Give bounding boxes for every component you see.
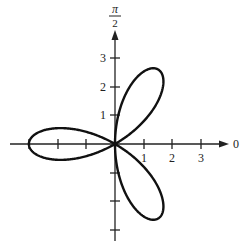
x-tick-label-1: 1 (141, 151, 147, 165)
vertical-axis-label-numerator: π (112, 2, 119, 16)
y-tick-label-1: 1 (100, 108, 106, 122)
y-tick-label-2: 2 (100, 80, 106, 94)
polar-plot: 1 2 3 1 2 3 0 π 2 (0, 0, 242, 241)
polar-axis-label: 0 (233, 137, 239, 151)
x-tick-label-2: 2 (169, 151, 175, 165)
polar-axis-arrow-icon (219, 141, 229, 148)
vertical-axis-arrow-icon (112, 30, 119, 40)
x-tick-label-3: 3 (198, 151, 204, 165)
y-tick-label-3: 3 (100, 51, 106, 65)
vertical-axis-label-denominator: 2 (112, 17, 118, 29)
